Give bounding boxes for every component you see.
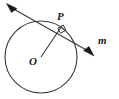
radius-segment-op — [41, 27, 62, 58]
label-point-p: P — [57, 11, 64, 22]
label-line-m: m — [98, 35, 107, 46]
circle-tangent-diagram: P O m — [0, 0, 119, 99]
tangent-line-m — [10, 7, 90, 52]
label-center-o: O — [29, 56, 37, 67]
arrowhead-upper-left-icon — [7, 4, 18, 13]
arrowhead-lower-right-icon — [84, 47, 95, 57]
